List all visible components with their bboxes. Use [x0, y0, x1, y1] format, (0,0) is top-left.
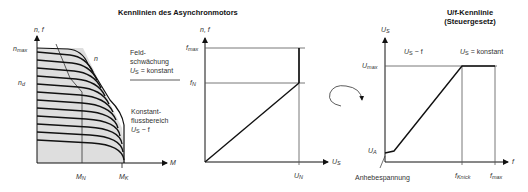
fw-line1: Feld-: [130, 48, 173, 57]
middle-chart: [205, 38, 328, 165]
u-a-tick: UA: [368, 147, 377, 155]
n-max-sub: max: [17, 47, 27, 53]
left-y-axis-label: n, f: [34, 26, 44, 33]
n-d-sub: d: [22, 81, 25, 87]
middle-x-axis-label: US: [332, 158, 341, 166]
m-n-tick: MN: [76, 173, 86, 181]
right-x-axis-label: f: [512, 158, 514, 165]
left-title: Kennlinien des Asynchronmotors: [118, 8, 238, 17]
m-k-tick: MK: [119, 173, 129, 181]
fw-post: = konstant: [139, 67, 173, 74]
field-weakening-label: Feld- schwächung US = konstant: [130, 48, 173, 77]
right-us-sub: S: [386, 28, 390, 34]
f-max-right-tick: fmax: [490, 172, 502, 180]
un-sub: N: [299, 174, 303, 180]
us-sub: S: [337, 160, 341, 166]
us-const-label: US = konstant: [460, 48, 503, 56]
m-k-sub: K: [125, 175, 129, 181]
fknick-sub: Knick: [457, 174, 470, 180]
m-n-sub: N: [82, 175, 86, 181]
left-x-axis-label: M: [170, 159, 176, 166]
diagram-canvas: [0, 0, 528, 192]
f-max-tick: fmax: [186, 44, 198, 52]
boost-voltage-label: Anhebespannung: [355, 174, 410, 181]
fw-line2: schwächung: [130, 57, 173, 66]
f-knick-tick: fKnick: [455, 172, 470, 180]
constant-flux-label: Konstant- flussbereich US ~ f: [131, 107, 168, 136]
right-title: U/f-Kennlinie (Steuergesetz): [435, 8, 505, 26]
fw-line3: US = konstant: [130, 66, 173, 77]
n-max-tick: nmax: [13, 45, 27, 53]
cf-post: ~ f: [140, 126, 150, 133]
right-chart: [380, 38, 508, 168]
us-prop-f-label: US ~ f: [404, 48, 423, 56]
right-y-axis-label: US: [381, 26, 390, 34]
u-n-tick: UN: [294, 172, 303, 180]
cf-line3: US ~ f: [131, 125, 168, 136]
rotate-arrow-icon: [329, 86, 362, 106]
cf-line1: Konstant-: [131, 107, 168, 116]
rr-post: = konstant: [469, 48, 503, 55]
right-title-line2: (Steuergesetz): [435, 17, 505, 26]
rl-post: ~ f: [413, 48, 423, 55]
umax-sub: max: [367, 64, 377, 70]
middle-y-axis-label: n, f: [200, 26, 210, 33]
cf-line2: flussbereich: [131, 116, 168, 125]
f-n-tick: fN: [190, 79, 196, 87]
right-title-line1: U/f-Kennlinie: [435, 8, 505, 17]
u-max-tick: Umax: [362, 62, 377, 70]
fn-sub: N: [192, 81, 196, 87]
fmaxr-sub: max: [492, 174, 502, 180]
n-curve-label: n: [94, 55, 98, 62]
fmax-sub: max: [188, 46, 198, 52]
ua-sub: A: [373, 149, 377, 155]
n-d-tick: nd: [18, 79, 25, 87]
